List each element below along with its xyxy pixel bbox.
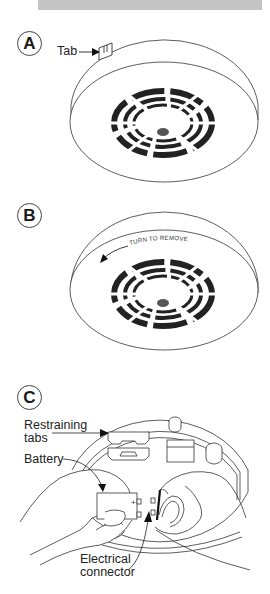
electrical-connector-line2: connector — [80, 566, 135, 579]
restraining-tabs-label: Restraining tabs — [24, 419, 87, 445]
electrical-connector-label: Electrical connector — [80, 553, 135, 579]
restraining-tabs-line2: tabs — [24, 432, 87, 445]
battery-plus-label: + — [131, 498, 136, 507]
step-c-badge: C — [17, 385, 42, 410]
detector-b — [70, 212, 258, 350]
tab-arrow-icon — [79, 48, 100, 56]
step-a-badge: A — [17, 31, 42, 56]
tab-icon — [99, 43, 112, 60]
base-components — [167, 417, 222, 464]
detector-a — [70, 40, 258, 182]
step-b-badge: B — [17, 203, 42, 228]
connector-icon — [151, 490, 184, 527]
instruction-illustration: TURN TO REMOVE + — [0, 0, 270, 594]
tab-label: Tab — [57, 45, 77, 58]
battery-label: Battery — [24, 453, 64, 466]
restraining-tabs — [108, 432, 149, 460]
